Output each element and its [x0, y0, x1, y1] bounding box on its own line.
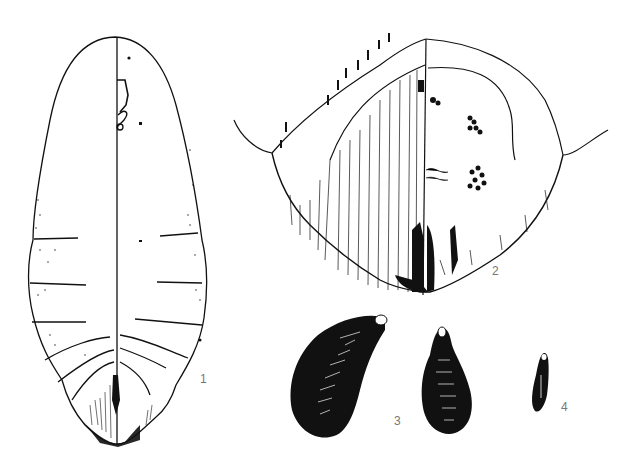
- illustration-plate: [0, 0, 638, 473]
- figure-label-3: 3: [394, 414, 401, 428]
- figure-3-medium-egg: [422, 327, 472, 434]
- figure-label-2: 2: [492, 264, 499, 278]
- figure-3-large-egg: [291, 315, 387, 438]
- figure-label-4: 4: [561, 400, 568, 414]
- figure-2-dark-parts: [280, 33, 487, 292]
- figure-4-small-body: [532, 353, 549, 412]
- figure-label-1: 1: [200, 372, 207, 386]
